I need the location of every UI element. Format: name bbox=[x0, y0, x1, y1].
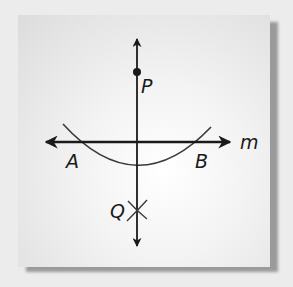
label-p: P bbox=[141, 75, 153, 97]
point-p bbox=[133, 68, 141, 76]
label-q: Q bbox=[110, 200, 125, 222]
label-a: A bbox=[64, 150, 79, 172]
construction-diagram: P A B m Q bbox=[0, 0, 293, 287]
label-m: m bbox=[240, 131, 259, 153]
label-b: B bbox=[195, 150, 208, 172]
